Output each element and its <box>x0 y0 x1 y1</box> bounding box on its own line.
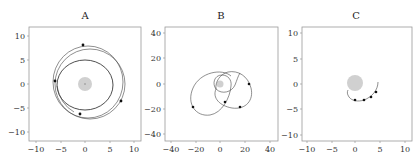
panel-a-y-ticks: 10 5 0 −5 −10 <box>8 32 29 137</box>
panel-b-ytick-label: 40 <box>151 29 161 38</box>
panel-b-y-ticks: 40 20 0 −20 −40 <box>144 29 165 139</box>
panel-b-ytick-label: −20 <box>144 105 161 114</box>
panel-c-title: C <box>352 10 360 21</box>
panel-c-x-ticks: −10 −5 0 5 10 <box>299 141 411 154</box>
panel-b-xtick-label: 20 <box>240 145 250 154</box>
figure: A −10 −5 0 5 10 10 5 0 −5 −10 <box>0 0 420 160</box>
panel-b-x-ticks: −40 −20 0 20 40 <box>163 141 276 154</box>
panel-c-ytick-label: −5 <box>286 105 298 114</box>
panel-b-trajectory <box>191 72 252 116</box>
panel-b-xtick-label: 40 <box>265 145 275 154</box>
panel-b-xtick-label: 0 <box>217 145 222 154</box>
panel-a-ytick-label: 0 <box>20 80 25 89</box>
panel-a-xtick-label: 10 <box>129 145 139 154</box>
panel-b: B −40 −20 0 20 40 40 20 0 −20 −40 <box>144 10 278 154</box>
panel-a-xtick-label: −5 <box>55 145 67 154</box>
panel-b-ytick-label: 20 <box>151 54 161 63</box>
panel-c-xtick-label: 5 <box>377 145 382 154</box>
panel-a-ytick-label: 10 <box>15 32 25 41</box>
panel-c-central-body <box>347 75 363 91</box>
panel-a-title: A <box>80 10 89 21</box>
panel-c-xtick-label: −10 <box>299 145 316 154</box>
panel-c-xtick-label: −5 <box>326 145 338 154</box>
panel-c-y-ticks: 10 5 0 −5 −10 <box>281 29 302 140</box>
panel-c: C −10 −5 0 5 10 10 5 0 −5 −10 <box>281 10 412 154</box>
panel-b-xtick-label: −40 <box>163 145 180 154</box>
panel-c-ytick-label: 10 <box>288 29 298 38</box>
panel-c-ytick-label: 0 <box>293 80 298 89</box>
panel-a-xtick-label: 5 <box>107 145 112 154</box>
panel-a-ytick-label: −10 <box>8 128 25 137</box>
panel-a: A −10 −5 0 5 10 10 5 0 −5 −10 <box>8 10 141 154</box>
panel-b-central-body <box>217 81 224 88</box>
panel-c-ytick-label: −10 <box>281 131 298 140</box>
panel-a-xtick-label: −10 <box>28 145 45 154</box>
panel-a-xtick-label: 0 <box>82 145 87 154</box>
panel-b-ytick-label: −40 <box>144 130 161 139</box>
panel-c-xtick-label: 0 <box>352 145 357 154</box>
panel-a-x-ticks: −10 −5 0 5 10 <box>28 141 140 154</box>
panel-c-ytick-label: 5 <box>293 55 298 64</box>
panel-b-ytick-label: 0 <box>156 80 161 89</box>
panel-c-xtick-label: 10 <box>400 145 410 154</box>
panel-a-center-point <box>84 83 86 85</box>
panel-b-title: B <box>217 10 224 21</box>
panel-b-xtick-label: −20 <box>188 145 205 154</box>
panel-a-ytick-label: 5 <box>20 56 25 65</box>
panel-a-ytick-label: −5 <box>13 104 25 113</box>
